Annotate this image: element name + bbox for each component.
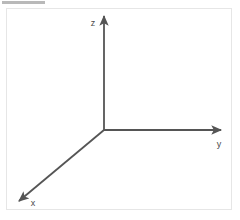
x-axis-line xyxy=(19,130,104,201)
coordinate-axes-diagram: z y x xyxy=(0,0,240,220)
z-axis-label: z xyxy=(91,18,96,28)
y-axis-label: y xyxy=(217,139,222,149)
x-axis-group: x xyxy=(19,130,104,208)
y-axis-group: y xyxy=(104,130,222,149)
x-axis-label: x xyxy=(31,198,36,208)
z-axis-group: z xyxy=(91,16,104,130)
